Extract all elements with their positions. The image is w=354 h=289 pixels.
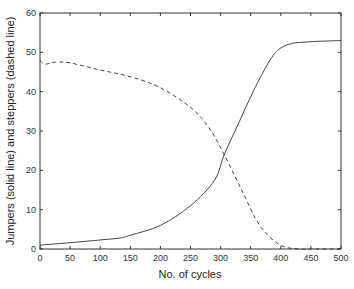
series-line-steppers [40,60,341,249]
plot-series [40,41,341,250]
y-tick-label: 10 [26,205,36,215]
x-tick-label: 450 [303,253,318,263]
x-tick-label: 150 [123,253,138,263]
plot-frame [40,13,341,249]
y-axis-label: Jumpers (solid line) and steppers (dashe… [4,17,16,246]
x-tick-label: 250 [183,253,198,263]
y-tick-label: 30 [26,126,36,136]
y-tick-label: 0 [31,244,36,254]
x-tick-label: 200 [153,253,168,263]
x-tick-label: 500 [333,253,348,263]
x-tick-label: 400 [273,253,288,263]
y-tick-label: 20 [26,165,36,175]
x-tick-label: 100 [93,253,108,263]
series-line-jumpers [40,41,341,246]
y-axis-ticks: 0102030405060 [26,8,341,254]
y-tick-label: 40 [26,87,36,97]
y-tick-label: 50 [26,47,36,57]
x-tick-label: 0 [37,253,42,263]
x-axis-ticks: 050100150200250300350400450500 [37,13,348,263]
y-tick-label: 60 [26,8,36,18]
line-chart: 050100150200250300350400450500 010203040… [0,0,354,289]
x-tick-label: 300 [213,253,228,263]
x-tick-label: 350 [243,253,258,263]
x-tick-label: 50 [65,253,75,263]
x-axis-label: No. of cycles [159,268,222,280]
